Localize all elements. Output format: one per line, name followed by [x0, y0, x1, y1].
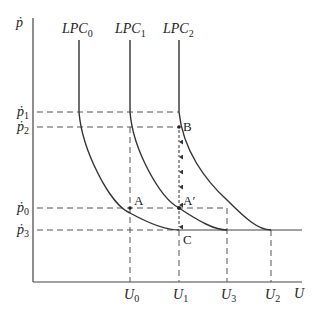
label-point-b: B [183, 119, 192, 134]
label-lpc1: LPC1 [114, 21, 146, 39]
point-b [177, 125, 181, 129]
tick-p2: ṗ2 [16, 119, 29, 136]
point-a-prime [177, 206, 181, 210]
tick-u0: U0 [124, 287, 139, 304]
tick-u3: U3 [221, 287, 236, 304]
label-lpc0: LPC0 [61, 21, 93, 39]
phillips-curve-diagram: ṗ U LPC0 LPC1 LPC2 ṗ1 ṗ2 ṗ0 ṗ3 U0 U1 U3 … [0, 0, 317, 314]
tick-p3: ṗ3 [16, 222, 29, 239]
point-a [128, 206, 132, 210]
tick-u2: U2 [265, 287, 280, 304]
label-lpc2: LPC2 [162, 21, 194, 39]
y-axis-label: ṗ [15, 15, 23, 30]
tick-p0: ṗ0 [16, 200, 29, 217]
label-point-c: C [183, 232, 192, 247]
x-axis-label: U [294, 286, 305, 301]
label-point-a: A [134, 193, 144, 208]
tick-u1: U1 [173, 287, 188, 304]
label-point-a-prime: A′ [183, 193, 195, 208]
curve-lpc0 [79, 40, 179, 230]
